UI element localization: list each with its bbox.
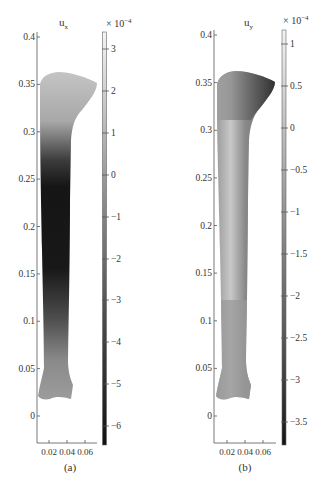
- y-tick-label: 0.35: [195, 78, 212, 88]
- colorbar-tick-label: 0: [290, 123, 295, 133]
- colorbar-tick-label: −1: [111, 212, 121, 222]
- y-tick-label: 0.4: [23, 32, 35, 42]
- figure: ux 0.4 0.35 0.3 0.25 0.2 0.15 0.1 0.: [0, 0, 325, 481]
- y-tick-label: 0.15: [18, 269, 35, 279]
- x-tick-label: 0.02: [219, 447, 235, 457]
- y-tick-label: 0: [207, 411, 212, 421]
- colorbar-tick-label: 3: [111, 44, 116, 54]
- colorbar-tick-label: −6: [111, 421, 121, 431]
- y-tick-label: 0.3: [200, 125, 212, 135]
- panel-a-label: (a): [64, 461, 77, 474]
- panel-b-colorbar: [282, 30, 286, 445]
- x-tick-label: 0.02: [41, 447, 57, 457]
- x-tick-label: 0.06: [77, 447, 93, 457]
- y-tick-label: 0.05: [195, 363, 212, 373]
- y-tick-label: 0.3: [23, 127, 35, 137]
- y-tick-label: 0.35: [18, 79, 35, 89]
- colorbar-tick-label: −2.5: [290, 333, 307, 343]
- panel-b-title: uy: [244, 16, 254, 31]
- panel-a-colorbar-scale: × 10−4: [106, 17, 132, 29]
- y-tick-label: 0.05: [18, 364, 35, 374]
- colorbar-tick-label: −0.5: [290, 165, 307, 175]
- x-tick-label: 0.04: [59, 447, 75, 457]
- x-tick-label: 0.04: [237, 447, 253, 457]
- colorbar-tick-label: −3: [111, 295, 121, 305]
- colorbar-tick-label: 1: [290, 39, 295, 49]
- panel-a-title: ux: [59, 16, 69, 31]
- colorbar-tick-label: −2: [290, 291, 300, 301]
- colorbar-tick-label: −1.5: [290, 249, 307, 259]
- panel-a: ux 0.4 0.35 0.3 0.25 0.2 0.15 0.1 0.: [18, 16, 132, 474]
- colorbar-tick-label: −3: [290, 375, 300, 385]
- colorbar-tick-label: −1: [290, 207, 300, 217]
- y-tick-label: 0.1: [23, 316, 35, 326]
- panel-b-label: (b): [239, 461, 252, 474]
- colorbar-tick-label: −5: [111, 379, 121, 389]
- colorbar-tick-label: 0.5: [290, 81, 302, 91]
- y-tick-label: 0.15: [195, 268, 212, 278]
- colorbar-tick-label: 1: [111, 128, 116, 138]
- y-tick-label: 0.25: [18, 174, 35, 184]
- panel-a-tibia-field: [38, 72, 97, 399]
- colorbar-tick-label: −4: [111, 337, 121, 347]
- y-tick-label: 0.1: [200, 316, 212, 326]
- panel-b-colorbar-scale: × 10−4: [283, 14, 309, 26]
- panel-b: uy 0.4 0.35 0.3 0.25 0.2 0.15 0.: [195, 14, 309, 474]
- y-tick-label: 0: [30, 411, 35, 421]
- y-tick-label: 0.25: [195, 173, 212, 183]
- panel-b-proximal-shading: [217, 71, 275, 120]
- y-tick-label: 0.4: [200, 30, 212, 40]
- colorbar-tick-label: −3.5: [290, 417, 307, 427]
- colorbar-tick-label: 2: [111, 86, 116, 96]
- x-tick-label: 0.06: [255, 447, 271, 457]
- panel-b-distal-shading: [216, 300, 251, 399]
- y-tick-label: 0.2: [23, 222, 35, 232]
- y-tick-label: 0.2: [200, 221, 212, 231]
- colorbar-tick-label: 0: [111, 170, 116, 180]
- colorbar-tick-label: −2: [111, 254, 121, 264]
- panel-a-colorbar: [103, 32, 107, 445]
